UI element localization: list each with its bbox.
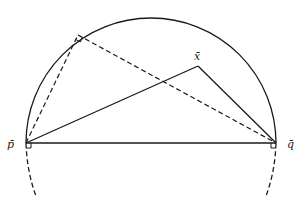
dashed-arc-right bbox=[266, 143, 276, 196]
geometry-diagram: p̄ q̄ x̄ bbox=[0, 0, 301, 205]
dashed-segment-p-t bbox=[26, 35, 78, 143]
segment-x-q bbox=[198, 66, 276, 143]
segment-p-x bbox=[26, 66, 198, 143]
dashed-segment-t-q bbox=[78, 35, 276, 143]
label-q: q̄ bbox=[287, 138, 294, 151]
semicircle-arc bbox=[26, 18, 276, 143]
dashed-arc-left bbox=[26, 143, 36, 196]
label-x: x̄ bbox=[194, 50, 201, 63]
label-p: p̄ bbox=[7, 138, 14, 151]
